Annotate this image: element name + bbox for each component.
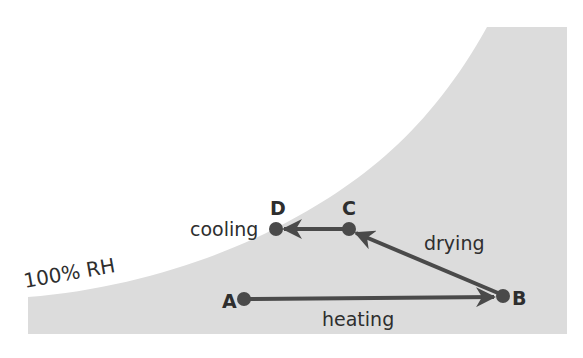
point-c-label: C bbox=[342, 197, 356, 219]
point-d-marker bbox=[269, 222, 283, 236]
point-a-marker bbox=[237, 292, 251, 306]
point-d-label: D bbox=[270, 197, 286, 219]
point-a-label: A bbox=[222, 290, 237, 312]
heating-label: heating bbox=[322, 308, 394, 330]
point-b-marker bbox=[496, 289, 510, 303]
heating-arrow bbox=[250, 297, 494, 299]
cooling-label: cooling bbox=[190, 218, 258, 240]
point-c-marker bbox=[342, 222, 356, 236]
drying-label: drying bbox=[424, 232, 485, 254]
psychrometric-diagram: 100% RH heating drying cooling A B C D bbox=[0, 0, 583, 358]
point-b-label: B bbox=[512, 287, 526, 309]
